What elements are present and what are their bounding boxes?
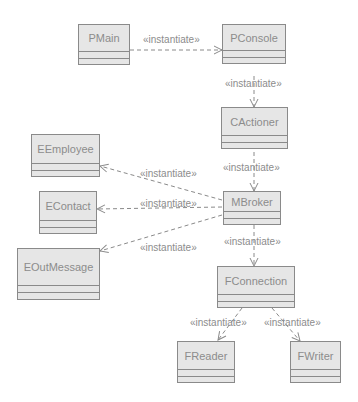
operations-compartment [79,58,129,65]
operations-compartment [40,227,96,234]
dependency-label: «instantiate» [143,34,200,45]
class-name: FConnection [218,267,294,294]
dependency-label: «instantiate» [264,317,321,328]
dependency-label: «instantiate» [190,317,247,328]
uml-class-diagram: PMain PConsole CActioner EEmployee ECont… [0,0,358,402]
class-fwriter[interactable]: FWriter [290,341,341,383]
class-name: FReader [178,342,234,369]
class-cactioner[interactable]: CActioner [221,107,288,149]
operations-compartment [224,218,280,225]
operations-compartment [291,376,340,383]
class-fconnection[interactable]: FConnection [217,266,295,308]
class-name: PMain [79,25,129,51]
dependency-label: «instantiate» [225,78,282,89]
class-freader[interactable]: FReader [177,341,235,383]
class-name: EContact [40,192,96,220]
operations-compartment [218,301,294,308]
class-name: EEmployee [32,135,99,163]
class-name: EOutMessage [18,249,99,285]
class-econtact[interactable]: EContact [39,191,97,234]
class-name: FWriter [291,342,340,369]
dependency-label: «instantiate» [223,162,280,173]
class-eoutmessage[interactable]: EOutMessage [17,248,100,300]
dependency-label: «instantiate» [140,168,197,179]
class-pconsole[interactable]: PConsole [222,24,286,64]
operations-compartment [223,57,285,64]
operations-compartment [32,170,99,177]
dependency-label: «instantiate» [140,242,197,253]
dependency-label: «instantiate» [140,198,197,209]
attributes-compartment [18,285,99,292]
class-mbroker[interactable]: MBroker [223,191,281,225]
class-eemployee[interactable]: EEmployee [31,134,100,177]
dependency-label: «instantiate» [224,236,281,247]
operations-compartment [18,292,99,299]
operations-compartment [178,376,234,383]
operations-compartment [222,142,287,149]
class-name: CActioner [222,108,287,135]
class-name: PConsole [223,25,285,50]
class-pmain[interactable]: PMain [78,24,130,65]
class-name: MBroker [224,192,280,211]
